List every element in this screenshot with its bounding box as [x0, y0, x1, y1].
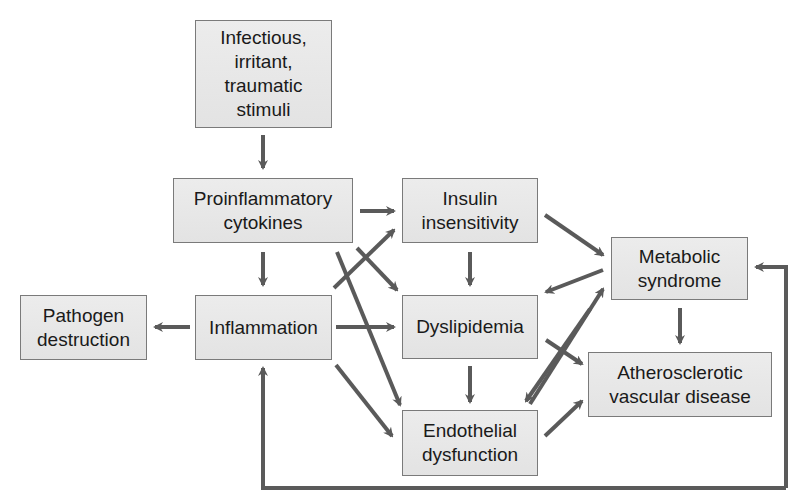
diagram-canvas: Infectious, irritant, traumatic stimuli … [0, 0, 800, 500]
node-dyslipidemia: Dyslipidemia [402, 295, 538, 359]
arrow-cytokines-dyslipidemia [357, 248, 397, 290]
arrow-insulin-metabolic [545, 215, 603, 255]
node-endothelial-dysfunction: Endothelial dysfunction [402, 410, 538, 476]
node-metabolic-syndrome: Metabolic syndrome [611, 237, 748, 300]
node-proinflammatory-cytokines: Proinflammatory cytokines [173, 178, 353, 243]
node-pathogen-destruction: Pathogen destruction [20, 295, 147, 360]
node-atherosclerotic-vascular-disease: Atherosclerotic vascular disease [588, 352, 772, 417]
node-inflammation: Inflammation [195, 295, 332, 360]
arrow-metabolic-dyslipidemia [546, 270, 603, 292]
arrow-inflammation-endothelial [336, 365, 392, 436]
arrow-endothelial-athero [545, 401, 582, 436]
node-insulin-insensitivity: Insulin insensitivity [402, 178, 538, 243]
node-stimuli: Infectious, irritant, traumatic stimuli [195, 20, 332, 128]
